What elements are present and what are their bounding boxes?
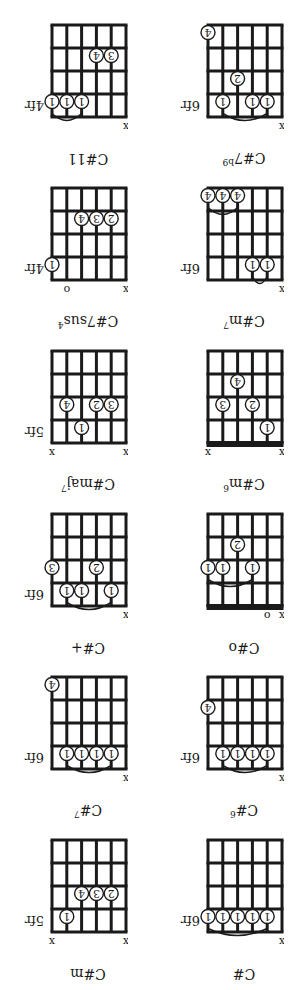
chord-diagram: C#oxo1112	[144, 444, 284, 604]
svg-text:2: 2	[93, 561, 100, 574]
muted-string-marker: x	[278, 283, 284, 296]
chord-name-text: C#m	[229, 476, 265, 492]
muted-string-marker: x	[278, 935, 284, 948]
finger-dot: 1	[216, 95, 230, 109]
finger-dot: 1	[104, 747, 118, 761]
svg-text:4: 4	[234, 189, 241, 202]
fretboard-grid: x6fr11444	[144, 170, 284, 300]
finger-dot: 1	[260, 747, 274, 761]
chord-name-text: C#7sus	[64, 313, 119, 329]
finger-dot: 2	[104, 887, 118, 901]
finger-dot: 4	[45, 678, 59, 692]
chord-diagram: C#6x6fr11114	[144, 607, 284, 767]
svg-text:1: 1	[78, 421, 85, 434]
svg-text:4: 4	[49, 678, 56, 691]
finger-dot: 1	[231, 747, 245, 761]
svg-text:3: 3	[219, 398, 226, 411]
muted-string-marker: x	[48, 935, 55, 948]
svg-text:1: 1	[234, 910, 241, 923]
finger-dot: 1	[260, 95, 274, 109]
svg-text:1: 1	[93, 747, 100, 760]
finger-dot: 1	[75, 421, 89, 435]
fretboard-grid: x6fr11111	[144, 822, 284, 952]
chord-diagram: C#7x6fr11114	[0, 607, 128, 767]
chord-diagram: C#11x4fr11134	[0, 0, 128, 115]
chord-name-text: C#m	[229, 313, 265, 329]
svg-text:2: 2	[108, 887, 115, 900]
finger-dot: 2	[89, 561, 103, 575]
chord-name: C#maj7	[18, 476, 158, 493]
finger-dot: 4	[201, 26, 215, 40]
fretboard-grid: x6fr11123	[0, 496, 128, 626]
finger-dot: 2	[231, 538, 245, 552]
chord-name: C#m7	[174, 313, 304, 330]
svg-text:1: 1	[63, 95, 70, 108]
finger-dot: 1	[60, 584, 74, 598]
finger-dot: 4	[75, 212, 89, 226]
finger-dot: 1	[260, 910, 274, 924]
svg-text:2: 2	[234, 72, 241, 85]
chord-name: C#7sus4	[18, 313, 158, 330]
finger-dot: 1	[260, 258, 274, 272]
finger-dot: 3	[104, 398, 118, 412]
svg-text:1: 1	[205, 561, 212, 574]
svg-text:1: 1	[219, 561, 226, 574]
finger-dot: 1	[216, 747, 230, 761]
finger-dot: 4	[216, 189, 230, 203]
finger-dot: 1	[245, 258, 259, 272]
chord-name-text: C#+	[71, 640, 105, 656]
chord-name-text: C#maj	[67, 476, 115, 492]
svg-text:4: 4	[63, 398, 70, 411]
svg-text:3: 3	[108, 398, 115, 411]
chord-name: C#m	[18, 966, 158, 982]
muted-string-marker: x	[204, 446, 211, 459]
muted-string-marker: x	[122, 935, 128, 948]
svg-text:2: 2	[234, 538, 241, 551]
chord-name: C#	[174, 966, 304, 982]
svg-text:3: 3	[49, 561, 56, 574]
svg-text:1: 1	[249, 561, 256, 574]
finger-dot: 3	[104, 49, 118, 63]
chord-suffix: 6	[223, 483, 229, 493]
finger-dot: 1	[104, 584, 118, 598]
svg-text:1: 1	[219, 95, 226, 108]
finger-dot: 1	[216, 561, 230, 575]
muted-string-marker: x	[278, 120, 284, 133]
svg-text:1: 1	[264, 910, 271, 923]
svg-text:1: 1	[264, 258, 271, 271]
chord-name-text: C#m	[70, 966, 106, 982]
muted-string-marker: x	[278, 609, 284, 622]
fretboard-grid: xx1234	[144, 333, 284, 463]
svg-text:4: 4	[234, 375, 241, 388]
chord-suffix: 7	[223, 320, 229, 330]
fret-position-label: 6fr	[24, 587, 44, 602]
svg-text:1: 1	[264, 421, 271, 434]
fretboard-grid: x6fr11114	[144, 659, 284, 789]
finger-dot: 1	[216, 910, 230, 924]
fret-position-label: 6fr	[180, 913, 200, 928]
svg-text:1: 1	[264, 747, 271, 760]
svg-text:2: 2	[249, 398, 256, 411]
svg-text:1: 1	[205, 910, 212, 923]
muted-string-marker: x	[122, 446, 128, 459]
chord-suffix: 4	[58, 320, 64, 330]
finger-dot: 3	[89, 212, 103, 226]
fret-position-label: 6fr	[180, 98, 200, 113]
svg-text:1: 1	[78, 584, 85, 597]
chord-name-text: C#	[233, 966, 255, 982]
svg-text:4: 4	[93, 49, 100, 62]
fret-position-label: 4fr	[24, 261, 44, 276]
svg-text:1: 1	[49, 258, 56, 271]
finger-dot: 1	[201, 910, 215, 924]
finger-dot: 4	[60, 398, 74, 412]
finger-dot: 1	[245, 95, 259, 109]
svg-text:1: 1	[249, 910, 256, 923]
svg-text:1: 1	[49, 95, 56, 108]
chord-diagram: C#m7x6fr11444	[144, 118, 284, 278]
finger-dot: 3	[216, 398, 230, 412]
finger-dot: 3	[45, 561, 59, 575]
svg-text:4: 4	[78, 887, 85, 900]
finger-dot: 4	[201, 701, 215, 715]
finger-dot: 1	[201, 561, 215, 575]
finger-dot: 4	[89, 49, 103, 63]
